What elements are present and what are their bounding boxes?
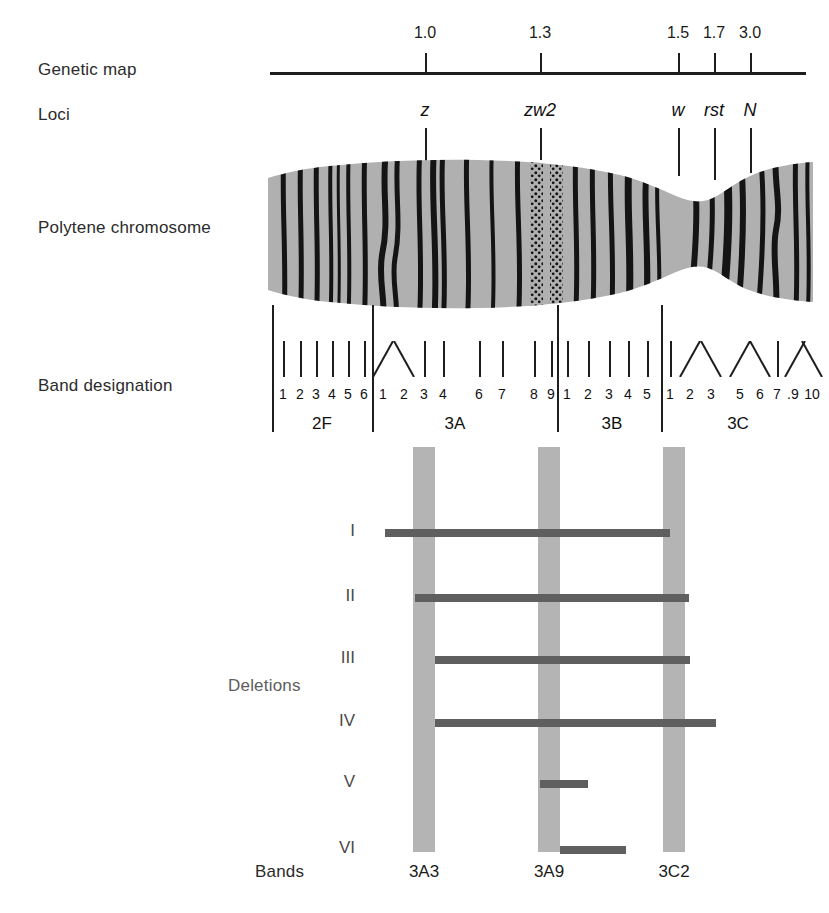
band-tick [283,341,285,377]
locus-label: zw2 [500,100,580,121]
section-label: 3C [698,414,778,434]
reference-band-column [663,447,685,852]
deletion-bar [385,529,670,537]
band-tick [443,341,445,377]
band-tick [300,341,302,377]
band-tick [551,341,553,377]
band-tick [502,341,504,377]
section-label: 3B [572,414,652,434]
genetic-map-tick-label: 1.3 [510,24,570,42]
genetic-map-tick [750,53,752,72]
band-tick [567,341,569,377]
reference-band-label: 3A9 [504,862,594,882]
band-tick [777,341,779,377]
band-tick [670,341,672,377]
band-tick [588,341,590,377]
reference-band-label: 3C2 [629,862,719,882]
genetic-map-tick [425,53,427,72]
deletion-row-label: I [300,521,355,541]
deletion-bar [540,780,588,788]
genetic-map-axis [270,72,806,75]
deletion-row-label: V [300,772,355,792]
section-label: 3A [415,414,495,434]
band-number: 10 [798,386,826,402]
figure-canvas: Genetic map Loci Polytene chromosome Ban… [0,0,829,913]
band-tick [364,341,366,377]
band-tick-angled [699,341,723,377]
genetic-map-tick [714,53,716,72]
reference-band-column [538,447,560,852]
row-label-polytene-chromosome: Polytene chromosome [38,218,211,238]
deletion-bar [415,594,689,602]
band-number: 3 [697,386,725,402]
section-divider [557,305,559,432]
band-tick [348,341,350,377]
band-tick [609,341,611,377]
reference-band-column [413,447,435,852]
band-tick [316,341,318,377]
band-tick [332,341,334,377]
row-label-genetic-map: Genetic map [38,60,137,80]
genetic-map-tick [678,53,680,72]
genetic-map-tick [540,53,542,72]
band-tick-angled [748,341,772,377]
section-divider [661,305,663,432]
deletion-bar [435,656,690,664]
reference-band-label: 3A3 [379,862,469,882]
band-tick [647,341,649,377]
deletion-bar [560,846,626,854]
band-number: 7 [488,386,516,402]
band-tick [424,341,426,377]
polytene-chromosome [268,150,813,325]
band-number: 4 [429,386,457,402]
row-label-bands: Bands [255,862,304,882]
deletion-row-label: III [300,648,355,668]
band-tick [479,341,481,377]
deletion-row-label: VI [300,838,355,858]
band-tick-angled [392,341,416,377]
polytene-chromosome-drawing [268,150,813,325]
section-divider [272,305,274,432]
locus-label: z [385,100,465,121]
deletion-bar [435,719,716,727]
band-tick [628,341,630,377]
row-label-deletions: Deletions [228,676,301,696]
row-label-band-designation: Band designation [38,376,173,396]
section-label: 2F [282,414,362,434]
genetic-map-tick-label: 1.0 [395,24,455,42]
band-tick-angled [800,341,824,377]
deletion-row-label: II [300,586,355,606]
band-tick [534,341,536,377]
genetic-map-tick-label: 3.0 [720,24,780,42]
deletion-row-label: IV [300,711,355,731]
row-label-loci: Loci [38,105,70,125]
locus-label: N [710,100,790,121]
